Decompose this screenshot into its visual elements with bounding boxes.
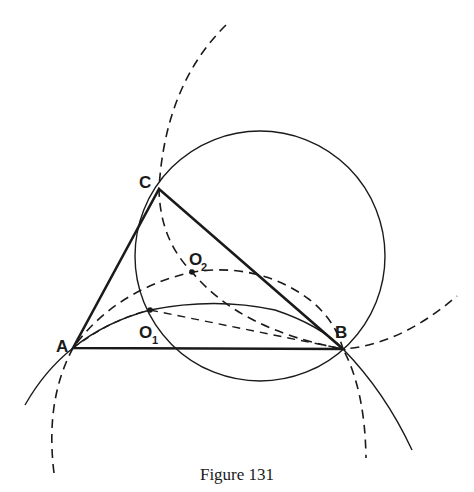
geometry-figure: A B C O 1 O 2 [0,0,474,492]
point-o2 [189,269,195,275]
arc-a-o1-b [25,304,412,451]
label-c: C [139,173,151,192]
label-o1-subscript: 1 [152,334,158,346]
label-b: B [335,323,347,342]
point-o1 [147,307,153,313]
triangle-abc [73,189,343,349]
label-o1: O [139,323,152,342]
arc-a-o2-b [52,270,457,473]
label-a: A [56,337,68,356]
segment-o1-b [150,310,343,349]
label-o2-subscript: 2 [201,261,207,273]
arc-c-o2-b [159,25,366,458]
figure-caption: Figure 131 [0,465,474,485]
circle-through-c-b [135,131,385,381]
